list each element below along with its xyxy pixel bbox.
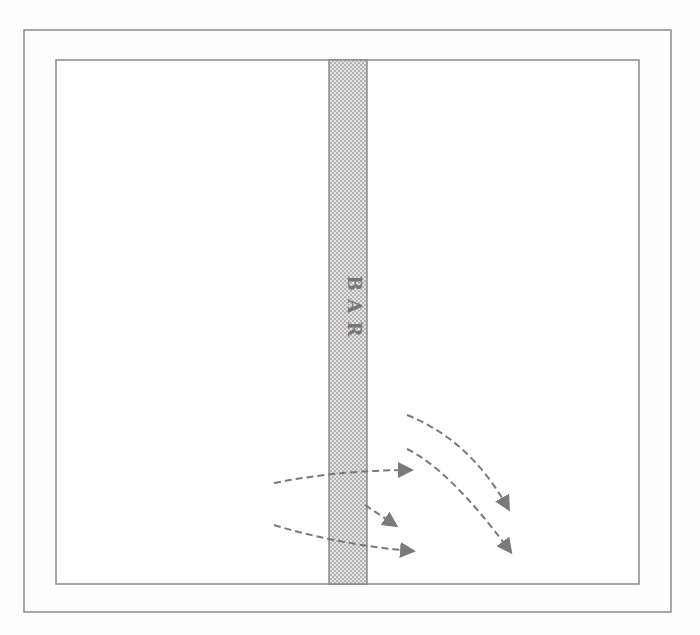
bar-label: B A R bbox=[344, 275, 365, 337]
backgammon-board: B A R bbox=[0, 0, 700, 635]
svg-text:R: R bbox=[344, 322, 365, 338]
svg-text:A: A bbox=[344, 298, 365, 314]
svg-text:B: B bbox=[344, 275, 365, 290]
